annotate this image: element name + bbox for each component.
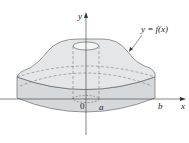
y-axis-label: y <box>78 12 82 21</box>
solid-of-revolution-diagram <box>0 0 189 143</box>
x-axis-label: x <box>181 102 185 111</box>
a-label: a <box>99 103 104 112</box>
curve-label: y = f(x) <box>141 25 168 34</box>
origin-label: 0 <box>80 102 85 111</box>
b-label: b <box>158 102 163 111</box>
